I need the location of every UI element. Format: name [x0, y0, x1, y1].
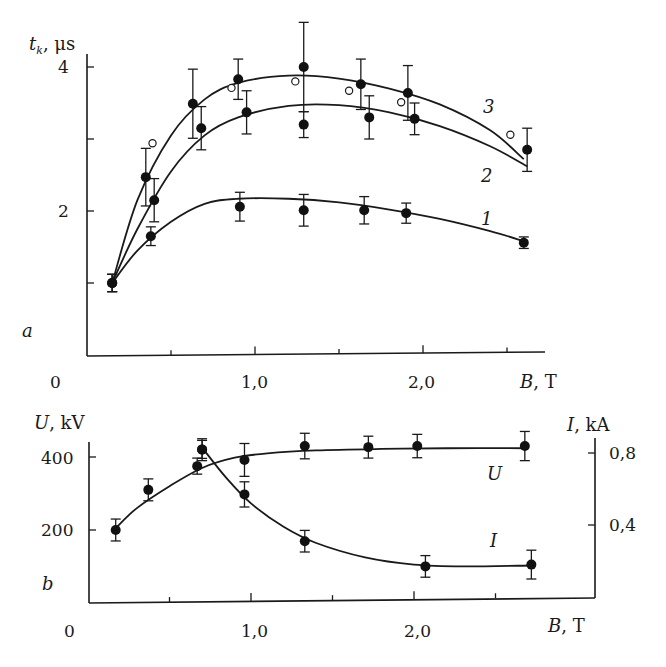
- data-point: [188, 99, 198, 109]
- data-point: [410, 114, 420, 124]
- panel-a-y-tick-label-4: 4: [58, 57, 69, 77]
- data-point: [192, 461, 202, 471]
- data-point: [300, 536, 310, 546]
- data-point: [356, 79, 366, 89]
- panel-b-label: b: [42, 573, 54, 594]
- fit-curve-U: [116, 448, 525, 528]
- panel-b-axes: [89, 438, 595, 603]
- data-point: [401, 208, 411, 218]
- data-point: [197, 444, 207, 454]
- data-point: [364, 112, 374, 122]
- data-point: [299, 120, 309, 130]
- data-point: [299, 62, 309, 72]
- data-point: [412, 441, 422, 451]
- data-point: [149, 195, 159, 205]
- data-point: [522, 145, 532, 155]
- data-point: [141, 172, 151, 182]
- data-point: [235, 202, 245, 212]
- panel-a-axes: [87, 54, 545, 356]
- data-point: [420, 561, 430, 571]
- curve-I-label: I: [489, 530, 498, 551]
- panel-a-x-axis: [87, 352, 545, 356]
- open-data-point: [292, 78, 299, 85]
- panel-a-x-tick-label-2: 2,0: [408, 372, 435, 392]
- panel-a-y-label: tk, μs: [29, 33, 75, 57]
- data-point: [299, 205, 309, 215]
- data-point: [111, 525, 121, 535]
- data-point: [143, 485, 153, 495]
- panel-b-x-label: B, T: [547, 615, 585, 636]
- open-data-point: [398, 99, 405, 106]
- panel-a-y-tick-label-2: 2: [58, 201, 69, 221]
- panel-b-plot-area: [111, 431, 537, 579]
- fit-curve-3: [112, 75, 524, 283]
- curve-U-label: U: [487, 463, 503, 484]
- curve-1-label: 1: [481, 208, 492, 229]
- panel-b-x-tick-label-1: 1,0: [241, 621, 268, 641]
- panel-a-plot-area: [107, 22, 532, 291]
- data-point: [242, 107, 252, 117]
- data-point: [363, 442, 373, 452]
- data-point: [107, 278, 117, 288]
- open-data-point: [149, 140, 156, 147]
- curve-2-label: 2: [480, 165, 492, 186]
- panel-a-x-tick-label-0: 0: [50, 372, 61, 392]
- data-point: [526, 560, 536, 570]
- open-data-point: [507, 131, 514, 138]
- panel-b-x-axis: [89, 598, 595, 603]
- panel-a-x-tick-label-1: 1,0: [241, 372, 268, 392]
- fit-curve-1: [112, 198, 524, 283]
- open-data-point: [345, 87, 352, 94]
- data-point: [196, 123, 206, 133]
- data-point: [239, 455, 249, 465]
- panel-a-x-label: B, T: [519, 371, 557, 392]
- panel-b-x-tick-label-2: 2,0: [404, 621, 431, 641]
- panel-b-x-tick-label-0: 0: [64, 621, 75, 641]
- figure: tk, μs 4 2 0 1,0 2,0 B, T a 1 2 3 U, kV …: [0, 0, 666, 667]
- data-point: [146, 231, 156, 241]
- data-point: [403, 88, 413, 98]
- fit-curve-I: [202, 448, 531, 567]
- open-data-point: [228, 84, 235, 91]
- panel-b-right-tick-label-08: 0,8: [609, 443, 636, 463]
- panel-b-y-label: U, kV: [34, 412, 86, 433]
- data-point: [520, 441, 530, 451]
- panel-b-right-y-label: I, kA: [566, 414, 610, 435]
- panel-a-label: a: [22, 320, 33, 341]
- panel-b-y-tick-label-200: 200: [41, 520, 73, 540]
- panel-b-right-tick-label-04: 0,4: [609, 515, 636, 535]
- data-point: [359, 205, 369, 215]
- data-point: [300, 441, 310, 451]
- data-point: [519, 238, 529, 248]
- curve-3-label: 3: [483, 96, 494, 117]
- data-point: [239, 489, 249, 499]
- panel-b-y-tick-label-400: 400: [41, 448, 73, 468]
- data-point: [233, 74, 243, 84]
